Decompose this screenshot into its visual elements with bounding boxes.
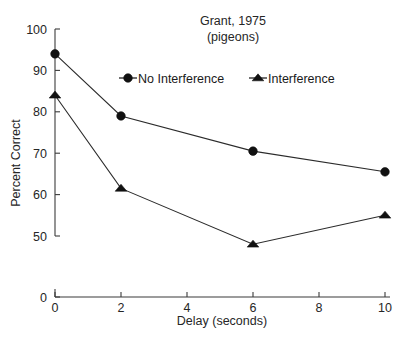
legend-item[interactable]: Interference	[249, 72, 335, 86]
circle-marker	[117, 112, 126, 121]
x-tick-label: 0	[52, 301, 59, 315]
y-tick-label: 50	[33, 230, 47, 244]
legend-item[interactable]: No Interference	[119, 72, 224, 86]
y-tick-label: 60	[33, 188, 47, 202]
y-tick-label: 100	[26, 23, 47, 37]
triangle-marker	[115, 184, 127, 191]
x-tick-label: 2	[118, 301, 125, 315]
chart-legend: No InterferenceInterference	[119, 72, 335, 86]
triangle-marker	[49, 91, 61, 98]
y-tick-label: 0	[40, 291, 47, 305]
data-series	[49, 91, 391, 247]
legend-label: Interference	[268, 72, 335, 86]
triangle-marker	[252, 74, 264, 81]
circle-marker	[51, 50, 60, 59]
chart-title: Grant, 1975	[200, 14, 266, 28]
line-chart: Grant, 1975 (pigeons) 05060708090100 024…	[0, 0, 407, 345]
circle-marker	[381, 168, 390, 177]
series-line	[55, 95, 385, 244]
x-tick-label: 10	[378, 301, 392, 315]
chart-container: Grant, 1975 (pigeons) 05060708090100 024…	[0, 0, 407, 345]
y-tick-label: 90	[33, 64, 47, 78]
data-series	[51, 50, 390, 177]
x-tick-label: 6	[250, 301, 257, 315]
y-tick-label: 70	[33, 147, 47, 161]
circle-marker	[249, 147, 258, 156]
triangle-marker	[379, 211, 391, 218]
circle-marker	[124, 74, 133, 83]
chart-subtitle: (pigeons)	[207, 30, 259, 44]
x-axis-label: Delay (seconds)	[177, 314, 267, 328]
legend-label: No Interference	[138, 72, 224, 86]
y-axis-label: Percent Correct	[9, 119, 23, 207]
y-tick-label: 80	[33, 105, 47, 119]
x-axis-ticks: 0246810	[52, 292, 392, 315]
x-tick-label: 4	[184, 301, 191, 315]
x-tick-label: 8	[316, 301, 323, 315]
